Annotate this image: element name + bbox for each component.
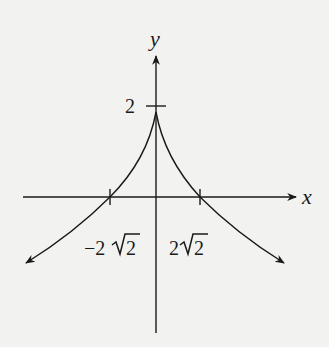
svg-text:2: 2: [194, 237, 204, 259]
x-axis-label: x: [301, 184, 312, 209]
svg-text:2: 2: [126, 237, 136, 259]
y-axis-label: y: [148, 26, 160, 51]
y-tick-label: 2: [125, 95, 135, 117]
svg-text:2: 2: [169, 237, 179, 259]
svg-text:−2: −2: [84, 237, 105, 259]
graph: y x 2 −2 2 2 2: [0, 0, 329, 347]
x-tick-label-right: 2 2: [169, 234, 208, 259]
x-tick-label-left: −2 2: [84, 234, 140, 259]
